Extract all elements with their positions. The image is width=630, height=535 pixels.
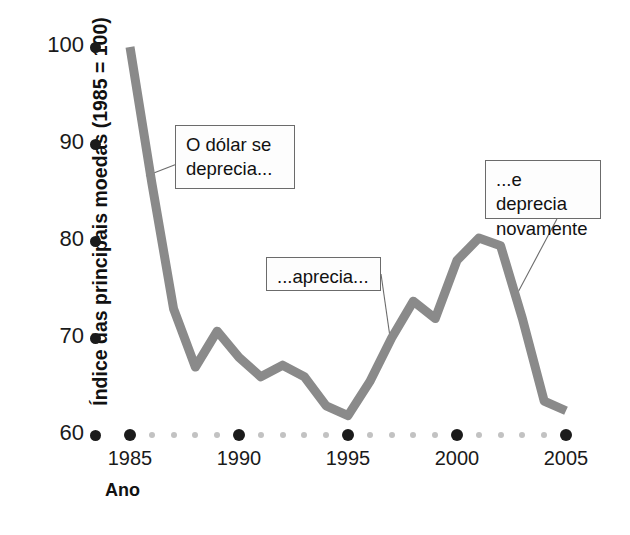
x-axis-major-dot	[233, 429, 245, 441]
x-axis-minor-dot	[498, 432, 504, 438]
y-tick-dot	[90, 139, 101, 150]
x-axis-minor-dot	[367, 432, 373, 438]
x-axis-minor-dot	[541, 432, 547, 438]
annotation-o-dolar-se-deprecia: O dólar se deprecia...	[175, 125, 295, 189]
x-axis-major-dot	[451, 429, 463, 441]
x-axis-minor-dot	[149, 432, 155, 438]
y-axis-title: Índice das principais moedas (1985 = 100…	[89, 0, 112, 432]
x-tick-label: 1995	[308, 447, 388, 470]
x-axis-minor-dot	[389, 432, 395, 438]
annotation-aprecia: ...aprecia...	[266, 257, 381, 291]
chart-canvas: Índice das principais moedas (1985 = 100…	[0, 0, 630, 535]
x-tick-label: 2005	[526, 447, 606, 470]
annotation-e-deprecia-novamente: ...e deprecia novamente	[485, 160, 601, 219]
x-axis-minor-dot	[280, 432, 286, 438]
x-tick-label: 1990	[199, 447, 279, 470]
x-tick-label: 2000	[417, 447, 497, 470]
x-axis-major-dot	[124, 429, 136, 441]
x-axis-minor-dot	[432, 432, 438, 438]
x-axis-minor-dot	[476, 432, 482, 438]
x-axis-minor-dot	[323, 432, 329, 438]
y-tick-label: 60	[38, 420, 84, 446]
y-tick-label: 90	[38, 129, 84, 155]
x-axis-title: Ano	[105, 480, 140, 501]
y-tick-dot	[90, 236, 101, 247]
y-tick-dot	[90, 42, 101, 53]
x-tick-label: 1985	[90, 447, 170, 470]
x-axis-minor-dot	[214, 432, 220, 438]
x-axis-major-dot	[342, 429, 354, 441]
y-tick-dot	[90, 333, 101, 344]
x-axis-major-dot	[560, 429, 572, 441]
y-tick-dot	[90, 430, 101, 441]
x-axis-minor-dot	[171, 432, 177, 438]
annotation-leader-line	[146, 165, 175, 176]
x-axis-minor-dot	[410, 432, 416, 438]
y-tick-label: 70	[38, 323, 84, 349]
y-tick-label: 80	[38, 226, 84, 252]
y-tick-label: 100	[38, 32, 84, 58]
x-axis-minor-dot	[301, 432, 307, 438]
annotation-leader-line	[381, 274, 390, 337]
x-axis-minor-dot	[258, 432, 264, 438]
x-axis-minor-dot	[519, 432, 525, 438]
x-axis-minor-dot	[192, 432, 198, 438]
